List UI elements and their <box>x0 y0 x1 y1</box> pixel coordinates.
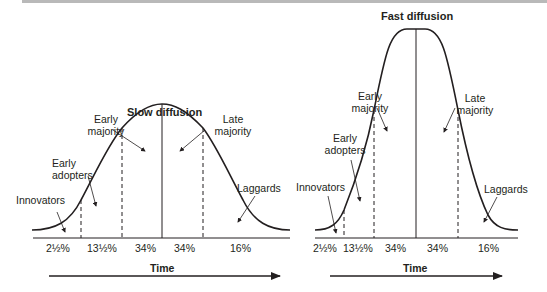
slow-pct-late-majority: 34% <box>174 242 195 254</box>
fast-time-label: Time <box>403 262 427 274</box>
slow-pct-laggards: 16% <box>230 242 251 254</box>
slow-laggards-label: Laggards <box>237 182 281 194</box>
fast-innovators-label: Innovators <box>296 181 345 193</box>
fast-diffusion-title: Fast diffusion <box>381 10 453 22</box>
fast-pct-laggards: 16% <box>478 242 499 254</box>
slow-early-majority-label: Early majority <box>81 113 131 137</box>
slow-innovators-label: Innovators <box>16 194 65 206</box>
slow-time-label: Time <box>150 262 174 274</box>
slow-pct-innovators: 2½% <box>46 242 70 254</box>
fast-early-majority-label: Early majority <box>345 90 395 114</box>
fast-pct-late-majority: 34% <box>427 242 448 254</box>
slow-diffusion-title: Slow diffusion <box>127 106 202 118</box>
fast-pct-early-adopters: 13½% <box>343 242 373 254</box>
fast-late-majority-label: Late majority <box>450 92 500 116</box>
fast-pct-innovators: 2½% <box>313 242 337 254</box>
diffusion-curves <box>0 0 547 292</box>
fast-pct-early-majority: 34% <box>385 242 406 254</box>
fast-laggards-label: Laggards <box>484 183 528 195</box>
fast-early-adopters-label: Early adopters <box>320 132 370 156</box>
slow-late-majority-label: Late majority <box>208 113 258 137</box>
slow-pct-early-majority: 34% <box>135 242 156 254</box>
slow-pct-early-adopters: 13½% <box>87 242 117 254</box>
slow-early-adopters-label: Early adopters <box>52 157 93 181</box>
